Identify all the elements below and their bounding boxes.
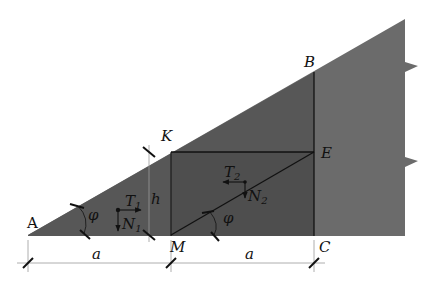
label-M: M (169, 238, 186, 256)
label-a-left: a (92, 245, 101, 263)
label-E: E (320, 144, 332, 162)
label-phi-left: φ (88, 206, 99, 224)
label-K: K (160, 127, 173, 145)
label-A: A (26, 214, 38, 232)
label-C: C (319, 238, 331, 256)
label-a-right: a (245, 245, 254, 263)
label-h: h (151, 190, 161, 208)
diagram: A B C E K M h a a φ φ T1 N1 T2 N2 (0, 0, 435, 286)
label-phi-right: φ (223, 209, 234, 227)
label-B: B (303, 53, 315, 71)
